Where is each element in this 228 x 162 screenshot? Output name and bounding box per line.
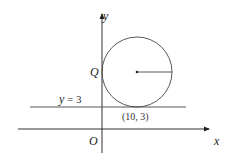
tangent-point-label: (10, 3): [122, 111, 149, 123]
line-equation-rest: = 3: [64, 93, 82, 105]
x-axis-label: x: [213, 134, 220, 148]
point-q-label: Q: [90, 65, 99, 79]
y-axis-label: y: [102, 9, 109, 23]
line-equation-label: y = 3: [58, 92, 82, 106]
diagram-canvas: y x O Q y = 3 (10, 3): [0, 0, 228, 162]
origin-label: O: [89, 134, 98, 148]
